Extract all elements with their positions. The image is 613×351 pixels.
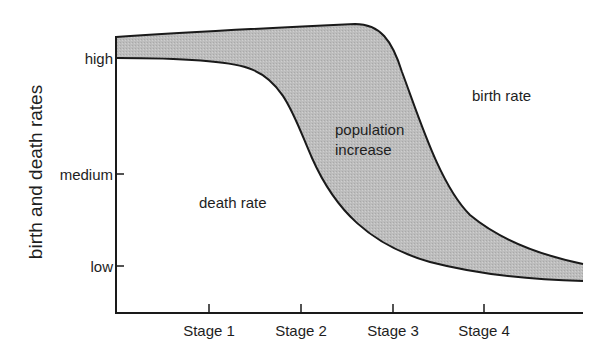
population-increase-label-line1: population — [335, 122, 404, 137]
x-tick-label-stage-1: Stage 1 — [183, 323, 235, 338]
y-tick-label-low: low — [33, 259, 113, 274]
y-tick-label-medium: medium — [33, 167, 113, 182]
y-tick-label-high: high — [33, 51, 113, 66]
x-tick-label-stage-2: Stage 2 — [275, 323, 327, 338]
birth-rate-label: birth rate — [472, 88, 531, 103]
population-increase-label-line2: increase — [335, 142, 392, 157]
demographic-transition-chart: birth and death rates high medium low St… — [0, 0, 613, 351]
x-tick-label-stage-4: Stage 4 — [458, 323, 510, 338]
x-tick-label-stage-3: Stage 3 — [367, 323, 419, 338]
death-rate-label: death rate — [199, 195, 267, 210]
